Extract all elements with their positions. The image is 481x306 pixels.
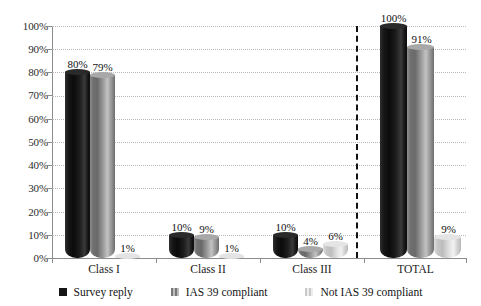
legend-label: Survey reply bbox=[74, 286, 133, 299]
data-label: 10% bbox=[268, 221, 303, 233]
bar-chart: 100% 90% 80% 70% 60% 50% 40% 30% 20% 10%… bbox=[0, 0, 481, 306]
bar-class-ii-survey-reply bbox=[169, 235, 194, 258]
bar-class-i-not-ias39-compliant bbox=[115, 256, 140, 258]
y-axis-labels: 100% 90% 80% 70% 60% 50% 40% 30% 20% 10%… bbox=[0, 0, 48, 306]
series-2-swatch-icon bbox=[305, 288, 313, 296]
y-tick-label: 80% bbox=[4, 67, 48, 78]
legend-label: Not IAS 39 compliant bbox=[320, 286, 422, 299]
data-label: 100% bbox=[374, 12, 413, 24]
bar-group-class-iii: 10% 4% 6% bbox=[260, 26, 364, 258]
x-category-label-class-i: Class I bbox=[52, 262, 156, 276]
bar-class-i-ias39-compliant bbox=[90, 75, 115, 258]
y-tick-label: 50% bbox=[4, 137, 48, 148]
x-category-label-class-ii: Class II bbox=[156, 262, 260, 276]
bar-total-survey-reply bbox=[380, 26, 407, 258]
bar-total-ias39-compliant bbox=[407, 47, 434, 258]
legend-item-survey-reply: Survey reply bbox=[59, 286, 133, 299]
series-1-swatch-icon bbox=[171, 288, 179, 296]
y-tick-label: 90% bbox=[4, 44, 48, 55]
bar-group-class-i: 80% 79% 1% bbox=[52, 26, 156, 258]
data-label: 9% bbox=[432, 223, 465, 235]
data-label: 1% bbox=[215, 242, 248, 254]
series-0-swatch-icon bbox=[59, 288, 67, 296]
bar-class-ii-not-ias39-compliant bbox=[219, 256, 244, 258]
y-tick-label: 40% bbox=[4, 160, 48, 171]
total-divider-line bbox=[356, 26, 358, 258]
y-tick-label: 100% bbox=[4, 21, 48, 32]
legend-label: IAS 39 compliant bbox=[186, 286, 268, 299]
bar-group-total: 100% 91% 9% bbox=[364, 26, 468, 258]
bar-class-i-survey-reply bbox=[65, 72, 90, 258]
legend-item-ias39-compliant: IAS 39 compliant bbox=[171, 286, 268, 299]
y-tick-label: 20% bbox=[4, 207, 48, 218]
bar-class-iii-ias39-compliant bbox=[298, 249, 323, 258]
y-tick-label: 30% bbox=[4, 183, 48, 194]
bar-group-class-ii: 10% 9% 1% bbox=[156, 26, 260, 258]
data-label: 6% bbox=[319, 230, 352, 242]
y-tick-label: 0% bbox=[4, 253, 48, 264]
bar-total-not-ias39-compliant bbox=[434, 237, 461, 258]
x-category-label-class-iii: Class III bbox=[260, 262, 364, 276]
data-label: 91% bbox=[405, 33, 438, 45]
y-tick-label: 60% bbox=[4, 114, 48, 125]
y-tick-label: 10% bbox=[4, 230, 48, 241]
plot-area: 80% 79% 1% 10% 9% 1% 10% 4% 6% 100% bbox=[52, 26, 466, 258]
data-label: 79% bbox=[86, 61, 119, 73]
x-category-label-total: TOTAL bbox=[364, 262, 467, 276]
data-label: 9% bbox=[190, 223, 223, 235]
data-label: 1% bbox=[111, 242, 144, 254]
chart-legend: Survey reply IAS 39 compliant Not IAS 39… bbox=[0, 282, 481, 302]
y-tick-label: 70% bbox=[4, 90, 48, 101]
legend-item-not-ias39-compliant: Not IAS 39 compliant bbox=[305, 286, 422, 299]
